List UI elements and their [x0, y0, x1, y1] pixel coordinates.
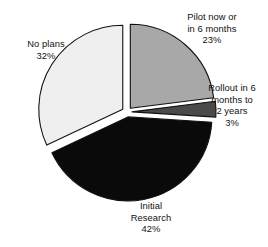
pie-label-initial-research-line1: Initial: [106, 200, 196, 212]
pie-label-pilot-line1: Pilot now or: [160, 11, 264, 23]
pie-label-pilot: Pilot now or in 6 months 23%: [160, 11, 264, 46]
pie-label-initial-research-line2: Research: [106, 212, 196, 224]
pie-label-no-plans-line1: No plans: [2, 38, 90, 50]
pie-label-rollout-line2: months to: [196, 94, 268, 106]
pie-label-initial-research-percent: 42%: [106, 223, 196, 235]
pie-label-rollout: Rollout in 6 months to 2 years 3%: [196, 82, 268, 128]
pie-label-no-plans-percent: 32%: [2, 50, 90, 62]
pie-label-rollout-percent: 3%: [196, 117, 268, 129]
pie-label-initial-research: Initial Research 42%: [106, 200, 196, 235]
pie-label-rollout-line3: 2 years: [196, 105, 268, 117]
pie-chart-figure: Pilot now or in 6 months 23% Rollout in …: [0, 0, 268, 247]
pie-label-pilot-percent: 23%: [160, 34, 264, 46]
pie-label-no-plans: No plans 32%: [2, 38, 90, 61]
pie-label-rollout-line1: Rollout in 6: [196, 82, 268, 94]
pie-label-pilot-line2: in 6 months: [160, 23, 264, 35]
